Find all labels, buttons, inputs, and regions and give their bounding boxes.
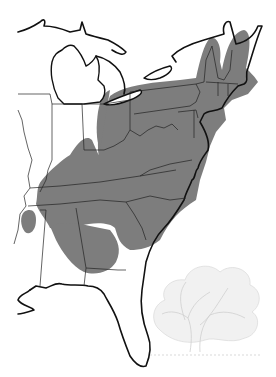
range-map xyxy=(0,0,276,377)
tree-illustration xyxy=(150,266,262,355)
